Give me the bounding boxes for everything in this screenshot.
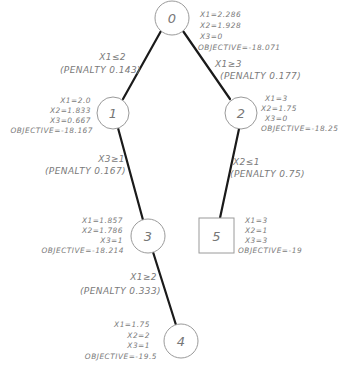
node-0[interactable]: 0 — [155, 1, 189, 35]
edge-3-4-constraint: X1≥2 — [129, 272, 157, 282]
node-0-x1: X1=2.286 — [199, 10, 241, 19]
node-5-x1: X1=3 — [244, 216, 268, 225]
node-3-objective: OBJECTIVE=-18.214 — [41, 246, 124, 255]
node-2-x1: X1=3 — [264, 94, 288, 103]
edge-0-2-constraint: X1≥3 — [214, 59, 242, 69]
node-3-x1: X1=1.857 — [81, 216, 123, 225]
node-1-label: 1 — [109, 106, 117, 121]
node-0-objective: OBJECTIVE=-18.071 — [198, 43, 281, 52]
edge-1-3-constraint: X3≥1 — [97, 154, 125, 164]
node-5-objective: OBJECTIVE=-19 — [238, 246, 302, 255]
edge-0-1-penalty: (PENALTY 0.143) — [60, 65, 141, 75]
node-0-x3: X3=0 — [199, 32, 223, 41]
node-1-info: X1=2.0 X2=1.833 X3=0.667 OBJECTIVE=-18.1… — [10, 96, 93, 135]
node-0-info: X1=2.286 X2=1.928 X3=0 OBJECTIVE=-18.071 — [198, 10, 281, 52]
node-4[interactable]: 4 — [164, 324, 198, 358]
node-4-x1: X1=1.75 — [113, 320, 150, 329]
edge-2-5-penalty: (PENALTY 0.75) — [230, 169, 305, 179]
edge-3-4-penalty: (PENALTY 0.333) — [80, 286, 161, 296]
node-4-objective: OBJECTIVE=-19.5 — [85, 352, 157, 361]
node-3-info: X1=1.857 X2=1.786 X3=1 OBJECTIVE=-18.214 — [41, 216, 124, 255]
node-3[interactable]: 3 — [131, 219, 165, 253]
node-3-x2: X2=1.786 — [81, 226, 123, 235]
node-1-x2: X2=1.833 — [49, 106, 91, 115]
node-0-label: 0 — [168, 11, 176, 26]
branch-and-bound-tree: 0 X1=2.286 X2=1.928 X3=0 OBJECTIVE=-18.0… — [0, 0, 347, 376]
edge-1-3-penalty: (PENALTY 0.167) — [45, 166, 126, 176]
node-4-x3: X3=1 — [126, 341, 150, 350]
node-2-objective: OBJECTIVE=-18.25 — [261, 124, 338, 133]
node-2[interactable]: 2 — [225, 97, 257, 129]
edge-0-1-constraint: X1≤2 — [98, 52, 126, 62]
node-2-info: X1=3 X2=1.75 X3=0 OBJECTIVE=-18.25 — [260, 94, 338, 133]
node-2-x3: X3=0 — [264, 114, 288, 123]
node-4-x2: X2=2 — [126, 331, 150, 340]
node-3-label: 3 — [144, 229, 152, 244]
node-5-x3: X3=3 — [244, 236, 268, 245]
node-5-x2: X2=1 — [244, 226, 268, 235]
node-5[interactable]: 5 — [199, 218, 234, 253]
edge-2-5-constraint: X2≤1 — [232, 157, 260, 167]
node-4-label: 4 — [177, 334, 185, 349]
node-0-x2: X2=1.928 — [199, 21, 241, 30]
node-1-x1: X1=2.0 — [59, 96, 91, 105]
node-2-x2: X2=1.75 — [260, 104, 297, 113]
node-1-objective: OBJECTIVE=-18.167 — [10, 126, 93, 135]
node-5-info: X1=3 X2=1 X3=3 OBJECTIVE=-19 — [238, 216, 302, 255]
node-2-label: 2 — [237, 106, 245, 121]
node-1-x3: X3=0.667 — [49, 116, 91, 125]
node-1[interactable]: 1 — [97, 97, 129, 129]
node-5-label: 5 — [212, 229, 220, 244]
edge-0-2-penalty: (PENALTY 0.177) — [220, 71, 301, 81]
node-3-x3: X3=1 — [99, 236, 123, 245]
node-4-info: X1=1.75 X2=2 X3=1 OBJECTIVE=-19.5 — [85, 320, 157, 361]
